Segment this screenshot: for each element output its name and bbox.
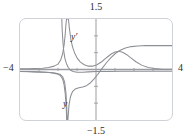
x-axis-min-label: −4 xyxy=(3,63,14,73)
curve-y-branch-left xyxy=(20,72,67,120)
curve-label-y: y xyxy=(63,100,67,110)
axes-layer xyxy=(20,19,172,120)
plot-viewport xyxy=(19,18,173,121)
plot-canvas xyxy=(20,19,172,120)
curve-label-y-prime: y′ xyxy=(71,33,77,43)
graph-screenshot: 1.5 −1.5 −4 4 y′ y xyxy=(0,0,192,139)
x-axis-max-label: 4 xyxy=(178,63,183,73)
y-axis-min-label: −1.5 xyxy=(0,126,192,136)
y-axis-max-label: 1.5 xyxy=(0,2,192,12)
